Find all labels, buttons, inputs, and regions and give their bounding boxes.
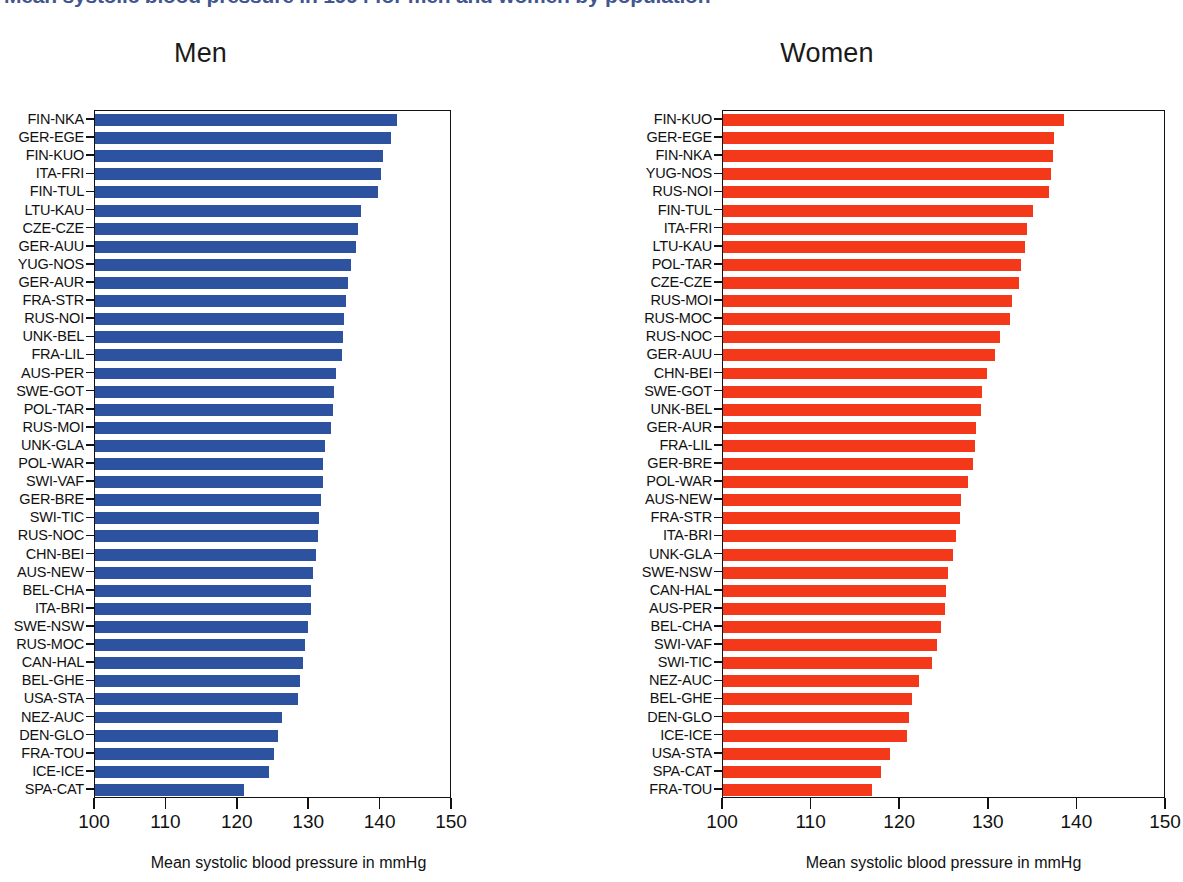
axis-tick-mark: [714, 173, 722, 175]
category-label-text: FIN-KUO: [26, 148, 84, 162]
category-tick-label: FRA-LIL: [31, 347, 94, 361]
category-label-text: SWE-GOT: [16, 384, 84, 398]
x-tick-mark: [898, 798, 900, 809]
category-tick-label: LTU-KAU: [652, 239, 722, 253]
bar: [95, 331, 343, 343]
axis-tick-mark: [714, 661, 722, 663]
category-label-text: UNK-GLA: [21, 438, 84, 452]
bar: [95, 114, 397, 126]
bar: [95, 422, 331, 434]
category-tick-label: SPA-CAT: [25, 782, 94, 796]
category-label-text: AUS-PER: [649, 601, 712, 615]
axis-tick-mark: [86, 154, 94, 156]
bar: [723, 186, 1049, 198]
category-label-text: SPA-CAT: [25, 782, 84, 796]
category-tick-label: SWE-NSW: [642, 565, 722, 579]
category-tick-label: SWE-GOT: [644, 384, 722, 398]
x-tick-label: 130: [972, 811, 1004, 833]
category-label-text: RUS-MOC: [644, 311, 712, 325]
chart-panel-women: Women FIN-KUOGER-EGEFIN-NKAYUG-NOSRUS-NO…: [591, 30, 1183, 878]
category-label-text: BEL-GHE: [650, 691, 712, 705]
axis-tick-mark: [714, 770, 722, 772]
axis-tick-mark: [714, 372, 722, 374]
category-label-text: FRA-LIL: [659, 438, 712, 452]
bar: [723, 422, 976, 434]
bar-series-women: [723, 111, 1164, 797]
bar: [95, 512, 319, 524]
category-label-text: POL-TAR: [24, 402, 84, 416]
x-tick-mark: [810, 798, 812, 809]
x-tick-mark: [1076, 798, 1078, 809]
axis-tick-mark: [86, 625, 94, 627]
axis-tick-mark: [86, 408, 94, 410]
bar: [723, 150, 1053, 162]
category-label-text: AUS-NEW: [645, 492, 712, 506]
category-tick-label: FRA-TOU: [21, 746, 94, 760]
category-tick-label: LTU-KAU: [24, 203, 94, 217]
bar: [723, 313, 1010, 325]
axis-tick-mark: [714, 390, 722, 392]
bar: [723, 621, 941, 633]
category-tick-label: GER-AUR: [19, 275, 94, 289]
x-tick-label: 130: [292, 811, 324, 833]
axis-tick-mark: [86, 390, 94, 392]
category-label-text: POL-WAR: [646, 474, 712, 488]
category-tick-label: SPA-CAT: [653, 764, 722, 778]
category-label-text: GER-AUU: [647, 347, 712, 361]
category-tick-label: RUS-NOI: [24, 311, 94, 325]
bar: [723, 114, 1064, 126]
category-label-text: SWI-VAF: [654, 637, 712, 651]
axis-tick-mark: [714, 462, 722, 464]
bar: [723, 259, 1021, 271]
bar: [95, 603, 311, 615]
category-label-text: SWI-TIC: [658, 655, 712, 669]
category-tick-label: GER-AUU: [647, 347, 722, 361]
category-label-text: FRA-LIL: [31, 347, 84, 361]
category-tick-label: UNK-BEL: [23, 329, 94, 343]
x-tick-mark: [450, 798, 452, 809]
category-tick-label: FIN-TUL: [658, 203, 722, 217]
bar: [723, 675, 919, 687]
axis-tick-mark: [86, 680, 94, 682]
bar: [95, 784, 244, 796]
axis-tick-mark: [714, 517, 722, 519]
bar: [95, 132, 391, 144]
bar: [95, 295, 346, 307]
chart-panel-men: Men FIN-NKAGER-EGEFIN-KUOITA-FRIFIN-TULL…: [0, 30, 591, 878]
axis-tick-mark: [714, 571, 722, 573]
category-label-text: RUS-MOC: [16, 637, 84, 651]
category-label-text: CZE-CZE: [23, 221, 84, 235]
category-tick-label: CAN-HAL: [650, 583, 722, 597]
axis-tick-mark: [86, 118, 94, 120]
category-tick-label: RUS-MOC: [644, 311, 722, 325]
x-axis-label-women: Mean systolic blood pressure in mmHg: [722, 854, 1165, 872]
axis-tick-mark: [86, 209, 94, 211]
axis-tick-mark: [714, 136, 722, 138]
category-label-text: USA-STA: [652, 746, 712, 760]
category-label-text: GER-BRE: [647, 456, 712, 470]
bar: [723, 295, 1012, 307]
category-label-text: DEN-GLO: [647, 710, 712, 724]
x-tick-mark: [93, 798, 95, 809]
axis-tick-mark: [714, 299, 722, 301]
category-tick-label: SWI-TIC: [30, 510, 94, 524]
axis-tick-mark: [714, 788, 722, 790]
category-tick-label: POL-TAR: [652, 257, 722, 271]
category-label-text: YUG-NOS: [646, 166, 712, 180]
category-tick-label: SWE-NSW: [14, 619, 94, 633]
category-label-text: UNK-GLA: [649, 547, 712, 561]
category-tick-label: UNK-GLA: [21, 438, 94, 452]
category-label-text: ITA-FRI: [36, 166, 84, 180]
bar: [95, 567, 313, 579]
axis-tick-mark: [714, 480, 722, 482]
bar: [95, 277, 348, 289]
category-label-text: UNK-BEL: [23, 329, 84, 343]
category-label-text: LTU-KAU: [24, 203, 84, 217]
category-tick-label: BEL-CHA: [23, 583, 94, 597]
x-axis-label-men: Mean systolic blood pressure in mmHg: [110, 854, 467, 872]
bar: [723, 567, 948, 579]
category-tick-label: ITA-FRI: [36, 166, 94, 180]
category-label-text: SWE-NSW: [14, 619, 84, 633]
category-tick-label: BEL-GHE: [22, 673, 94, 687]
category-tick-label: AUS-NEW: [17, 565, 94, 579]
